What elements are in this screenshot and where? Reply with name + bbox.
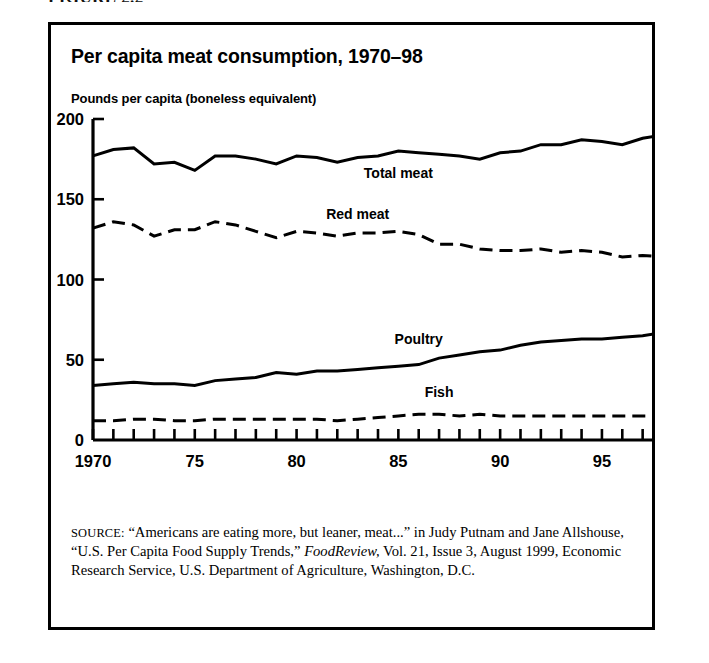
x-axis-labels: 19707580859095	[75, 452, 611, 470]
series-inline-labels: Total meatRed meatPoultryFish	[326, 165, 453, 399]
series-line-fish	[93, 414, 652, 420]
source-line-4: Service, U.S. Department of Agriculture,…	[128, 562, 475, 578]
source-note: SOURCE: “Americans are eating more, but …	[71, 523, 638, 579]
y-tick-label: 0	[75, 431, 84, 449]
y-tick-label: 50	[66, 351, 84, 369]
x-tick-label: 75	[186, 452, 204, 470]
series-label-fish: Fish	[425, 384, 454, 400]
y-tick-label: 200	[56, 110, 84, 128]
series-line-red-meat	[93, 222, 652, 257]
source-line-1: “Americans are eating more, but leaner, …	[125, 524, 457, 540]
x-tick-label: 90	[491, 452, 509, 470]
series-label-poultry: Poultry	[395, 331, 443, 347]
series-line-poultry	[93, 332, 652, 385]
y-tick-label: 100	[56, 271, 84, 289]
y-axis-labels: 050100150200	[56, 110, 84, 449]
source-publication: FoodReview,	[304, 543, 380, 559]
x-tick-label: 95	[593, 452, 611, 470]
figure-box: Per capita meat consumption, 1970–98 Pou…	[48, 22, 655, 630]
x-axis-ticks	[93, 429, 652, 440]
line-chart-svg: 050100150200 19707580859095 Total meatRe…	[51, 25, 652, 525]
x-tick-label: 80	[287, 452, 305, 470]
figure-caption: FIGURE 2.2	[48, 0, 144, 2]
series-label-red-meat: Red meat	[326, 206, 389, 222]
x-tick-label: 1970	[75, 452, 112, 470]
x-tick-label: 85	[389, 452, 407, 470]
y-tick-label: 150	[56, 190, 84, 208]
series-label-total-meat: Total meat	[364, 165, 433, 181]
source-label: SOURCE:	[71, 526, 125, 540]
